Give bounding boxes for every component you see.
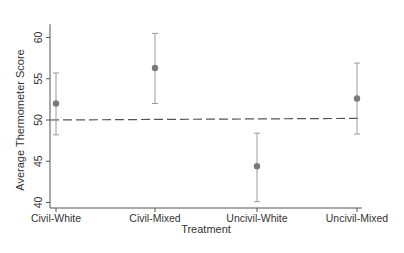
reference-line (50, 118, 362, 120)
data-point-group (152, 33, 158, 103)
data-point-marker (152, 65, 158, 71)
x-tick-label: Civil-White (31, 212, 81, 224)
y-tick-label: 60 (32, 32, 44, 44)
data-point-marker (254, 163, 260, 169)
y-tick-label: 40 (32, 197, 44, 209)
x-axis-label: Treatment (181, 223, 231, 235)
data-point-group (53, 73, 59, 135)
y-tick-label: 55 (32, 73, 44, 85)
y-tick-label: 45 (32, 155, 44, 167)
y-tick-label: 50 (32, 114, 44, 126)
data-point-marker (354, 95, 360, 101)
x-axis: Civil-WhiteCivil-MixedUncivil-WhiteUnciv… (31, 208, 388, 224)
chart-container: 4045505560 Civil-WhiteCivil-MixedUncivil… (0, 0, 404, 253)
chart-svg: 4045505560 Civil-WhiteCivil-MixedUncivil… (0, 0, 404, 253)
dashed-reference-line (50, 118, 362, 120)
data-points (53, 33, 360, 201)
x-tick-label: Uncivil-White (226, 212, 287, 224)
y-axis: 4045505560 (32, 24, 50, 208)
x-tick-label: Civil-Mixed (129, 212, 180, 224)
x-tick-label: Uncivil-Mixed (326, 212, 389, 224)
data-point-group (354, 63, 360, 134)
data-point-group (254, 133, 260, 201)
data-point-marker (53, 100, 59, 106)
y-axis-label: Average Thermometer Score (14, 49, 26, 190)
